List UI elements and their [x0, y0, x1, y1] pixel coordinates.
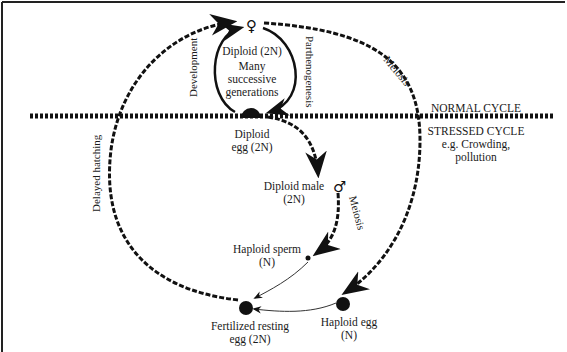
- generations-line3: generations: [225, 86, 279, 99]
- female-meiosis-label: Meiosis: [381, 54, 413, 88]
- diploid-egg-label-1: Diploid: [234, 128, 269, 141]
- resting-egg-dot: [239, 301, 253, 315]
- parthenogenesis-label: Parthenogenesis: [304, 36, 316, 107]
- stressed-note-1: e.g. Crowding,: [442, 138, 510, 151]
- sperm-dot: [306, 256, 311, 261]
- resting-egg-label-1: Fertilized resting: [211, 320, 289, 333]
- delayed-hatching-arrow: [109, 22, 238, 300]
- stressed-note-2: pollution: [455, 151, 497, 164]
- parthenogenesis-arrow: [263, 28, 296, 112]
- development-arrow: [215, 28, 240, 112]
- generations-line1: Many: [239, 60, 266, 73]
- diploid-egg-dot: [241, 108, 261, 118]
- life-cycle-diagram: ♀ ♂ Diploid (2N) Many successive generat…: [0, 0, 567, 352]
- male-symbol-icon: ♂: [333, 178, 346, 196]
- sperm-label-2: (N): [259, 256, 275, 269]
- haploid-egg-label-2: (N): [341, 329, 357, 342]
- male-meiosis-arrow: [317, 193, 338, 253]
- development-label: Development: [187, 38, 199, 97]
- haploid-egg-label-1: Haploid egg: [321, 316, 378, 329]
- sperm-label-1: Haploid sperm: [233, 243, 301, 256]
- female-label: Diploid (2N): [222, 45, 282, 58]
- normal-cycle-label: NORMAL CYCLE: [431, 102, 521, 114]
- stressed-cycle-label: STRESSED CYCLE: [428, 125, 525, 137]
- male-label-2: (2N): [283, 193, 305, 206]
- delayed-hatching-label: Delayed hatching: [90, 134, 102, 212]
- egg-to-male-arrow: [268, 117, 318, 173]
- generations-line2: successive: [228, 73, 277, 85]
- male-label-1: Diploid male: [264, 180, 324, 193]
- diploid-egg-label-2: egg (2N): [231, 141, 272, 154]
- female-symbol-icon: ♀: [246, 17, 257, 35]
- male-meiosis-label: Meiosis: [347, 194, 368, 231]
- haploid-egg-dot: [336, 297, 350, 311]
- resting-egg-label-2: egg (2N): [229, 333, 270, 346]
- egg-to-resting-egg-arrow: [254, 303, 336, 311]
- frame: [2, 2, 565, 352]
